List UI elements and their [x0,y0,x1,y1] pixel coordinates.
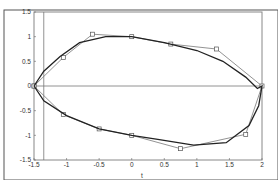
y-tick-label: 0 [27,82,31,89]
x-tick-label: 0.5 [160,161,169,168]
x-tick-label: 2 [260,161,264,168]
square-marker [179,147,183,151]
x-tick-label: 0 [130,161,134,168]
square-marker [244,132,248,136]
y-tick-label: -0.5 [20,107,32,114]
y-tick-label: 0.5 [22,58,31,65]
y-tick-label: -1.5 [20,156,32,163]
chart-container: -1.5-1-0.500.511.521.510.50-0.5-1-1.5 t [0,0,278,180]
line-chart: -1.5-1-0.500.511.521.510.50-0.5-1-1.5 t [0,0,278,180]
y-tick-label: 1 [27,33,31,40]
x-tick-label: -1 [64,161,70,168]
y-tick-label: 1.5 [22,8,31,15]
square-marker [61,55,65,59]
x-tick-label: 1 [195,161,199,168]
y-tick-label: -1 [25,132,31,139]
square-marker [214,47,218,51]
x-tick-label: -0.5 [94,161,106,168]
x-tick-label: 1.5 [225,161,234,168]
x-axis-label: t [141,172,143,179]
square-marker [91,32,95,36]
